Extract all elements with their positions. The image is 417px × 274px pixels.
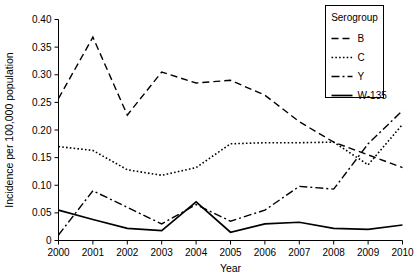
y-tick-label: 0.20 <box>32 125 52 136</box>
y-tick-label: 0.35 <box>32 42 52 53</box>
line-chart: 00.050.100.150.200.250.300.350.40 200020… <box>0 0 417 274</box>
legend-label-c: C <box>358 52 365 63</box>
x-tick-label: 2008 <box>323 247 346 258</box>
y-tick-label: 0 <box>46 235 52 246</box>
x-axis-title: Year <box>220 262 242 274</box>
x-tick-label: 2007 <box>288 247 311 258</box>
x-tick-label: 2009 <box>357 247 380 258</box>
x-tick-label: 2002 <box>116 247 139 258</box>
legend-label-y: Y <box>358 71 365 82</box>
y-tick-label: 0.05 <box>32 207 52 218</box>
chart-legend: Serogroup BCYW-135 <box>326 6 388 102</box>
y-tick-label: 0.25 <box>32 97 52 108</box>
y-tick-label: 0.40 <box>32 14 52 25</box>
legend-label-w-135: W-135 <box>358 90 388 101</box>
x-tick-label: 2004 <box>185 247 208 258</box>
x-tick-label: 2006 <box>254 247 277 258</box>
chart-figure: 00.050.100.150.200.250.300.350.40 200020… <box>0 0 417 274</box>
x-tick-label: 2005 <box>219 247 242 258</box>
x-tick-label: 2003 <box>151 247 174 258</box>
y-tick-label: 0.30 <box>32 69 52 80</box>
y-tick-label: 0.15 <box>32 152 52 163</box>
y-axis-title: Incidence per 100,000 population <box>3 52 15 207</box>
legend-title: Serogroup <box>331 12 378 23</box>
x-tick-label: 2001 <box>82 247 105 258</box>
x-tick-label: 2010 <box>391 247 414 258</box>
x-tick-label: 2000 <box>47 247 70 258</box>
legend-label-b: B <box>358 33 365 44</box>
y-tick-label: 0.10 <box>32 180 52 191</box>
